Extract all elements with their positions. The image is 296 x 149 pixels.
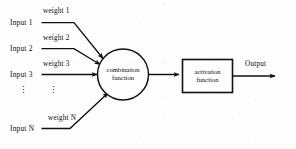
output-label: Output [245, 61, 266, 68]
weight-label-3: weight 3 [43, 61, 70, 68]
combination-function-label-line2: function [100, 74, 146, 82]
ellipsis-inputs: ⋮ [19, 86, 28, 95]
activation-function-label-line2: function [184, 76, 231, 84]
combination-function-label-line1: combination [100, 66, 146, 74]
weight-label-2: weight 2 [43, 35, 70, 42]
input-label-3: Input 3 [10, 71, 33, 78]
ellipsis-weights: ⋮ [49, 86, 58, 95]
weight-label-1: weight 1 [43, 8, 70, 15]
input-label-1: Input 1 [10, 19, 33, 26]
connection-input-n [42, 93, 109, 129]
weight-label-n: weight N [48, 115, 76, 122]
activation-function-label-line1: activation [184, 68, 231, 76]
input-label-2: Input 2 [10, 45, 33, 52]
input-label-n: Input N [10, 125, 34, 132]
neuron-diagram-canvas: Input 1 Input 2 Input 3 Input N weight 1… [0, 0, 296, 149]
diagram-vector-layer [0, 0, 296, 149]
